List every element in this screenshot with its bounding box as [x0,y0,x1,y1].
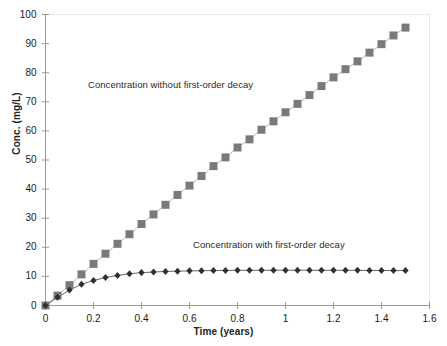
data-point-marker [102,250,110,258]
data-point-marker [306,267,312,274]
data-point-marker [366,49,374,57]
data-point-marker [90,277,96,284]
data-point-marker [198,172,206,180]
data-point-marker [210,267,216,274]
data-point-marker [222,153,230,161]
data-point-marker [78,270,86,278]
data-point-marker [318,267,324,274]
annotation-with-decay: Concentration with first-order decay [193,239,345,250]
data-point-marker [126,270,132,277]
data-point-marker [102,274,108,281]
data-point-marker [402,267,408,274]
data-point-marker [126,230,134,238]
data-point-marker [114,240,122,248]
data-point-marker [354,267,360,274]
data-point-marker [138,220,146,228]
plot-frame [46,15,430,306]
chart-container: Conc. (mg/L) Time (years) 01020304050607… [0,0,447,346]
data-point-marker [390,267,396,274]
data-point-marker [342,267,348,274]
data-point-marker [174,268,180,275]
data-point-marker [330,267,336,274]
data-point-marker [282,108,290,116]
data-point-marker [186,182,194,190]
data-point-marker [306,91,314,99]
data-point-marker [294,267,300,274]
plot-area [0,0,447,346]
data-point-marker [150,269,156,276]
data-point-marker [354,57,362,65]
data-point-marker [378,40,386,48]
data-point-marker [378,267,384,274]
data-point-marker [138,269,144,276]
data-point-marker [234,267,240,274]
data-point-marker [258,126,266,134]
data-point-marker [342,65,350,73]
data-point-marker [246,135,254,143]
data-point-marker [270,117,278,125]
data-point-marker [186,267,192,274]
data-point-marker [150,210,158,218]
annotation-without-decay: Concentration without first-order decay [88,79,253,90]
data-point-marker [246,267,252,274]
data-point-marker [78,281,84,288]
data-point-marker [258,267,264,274]
data-point-marker [330,73,338,81]
data-point-marker [282,267,288,274]
data-point-marker [162,201,170,209]
data-point-marker [114,272,120,279]
data-point-marker [390,31,398,39]
data-point-marker [366,267,372,274]
data-point-marker [222,267,228,274]
data-point-marker [198,267,204,274]
series-line-1 [46,270,406,305]
data-point-marker [174,191,182,199]
data-point-marker [162,268,168,275]
data-point-marker [318,82,326,90]
data-point-marker [270,267,276,274]
data-point-marker [234,143,242,151]
series-line-0 [46,28,406,306]
data-point-marker [294,100,302,108]
data-point-marker [210,162,218,170]
data-point-marker [402,24,410,32]
data-point-marker [90,260,98,268]
